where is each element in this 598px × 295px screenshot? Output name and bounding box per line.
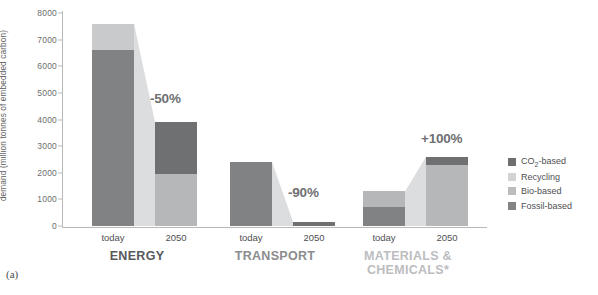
y-tick-label: 6000 xyxy=(37,61,57,71)
legend-item[interactable]: Recycling xyxy=(508,170,572,185)
bar-segment-fossil-based xyxy=(230,162,272,226)
y-tick-mark xyxy=(58,226,62,227)
y-tick-label: 7000 xyxy=(37,35,57,45)
x-tick-label: 2050 xyxy=(155,232,197,243)
legend-item[interactable]: CO2-based xyxy=(508,155,572,170)
change-annotation: +100% xyxy=(421,131,462,146)
y-axis-title: demand (million tonnes of embedded carbo… xyxy=(0,8,8,223)
bar-energy-2050 xyxy=(155,122,197,226)
y-tick-mark xyxy=(58,146,62,147)
bar-segment-co2-based xyxy=(293,222,335,226)
bar-segment-fossil-based xyxy=(363,207,405,226)
bar-transport-2050 xyxy=(293,222,335,226)
legend-label: Fossil-based xyxy=(521,201,572,211)
legend-swatch-icon xyxy=(508,173,516,181)
x-tick-label: today xyxy=(92,232,134,243)
x-tick-label: today xyxy=(230,232,272,243)
bar-segment-co2-based xyxy=(155,122,197,174)
legend-item[interactable]: Fossil-based xyxy=(508,199,572,214)
bar-materials-chemicals-today xyxy=(363,191,405,226)
x-axis-line xyxy=(62,227,487,228)
y-tick-mark xyxy=(58,66,62,67)
y-tick-label: 4000 xyxy=(37,115,57,125)
panel-label: (a) xyxy=(6,268,18,280)
y-tick-mark xyxy=(58,199,62,200)
bar-segment-co2-based xyxy=(426,157,468,165)
bar-energy-today xyxy=(92,24,134,226)
y-tick-label: 3000 xyxy=(37,141,57,151)
bar-segment-fossil-based xyxy=(92,50,134,226)
chart-legend: CO2-basedRecyclingBio-basedFossil-based xyxy=(508,155,572,213)
bar-segment-bio-based xyxy=(155,174,197,226)
group-label-materials-chemicals: MATERIALS &CHEMICALS* xyxy=(328,250,488,277)
bar-materials-chemicals-2050 xyxy=(426,157,468,226)
bar-segment-recycling xyxy=(363,191,405,207)
x-tick-label: today xyxy=(363,232,405,243)
legend-item[interactable]: Bio-based xyxy=(508,184,572,199)
y-tick-mark xyxy=(58,119,62,120)
legend-label: CO2-based xyxy=(521,156,566,168)
y-tick-label: 0 xyxy=(52,221,57,231)
bar-segment-recycling xyxy=(92,24,134,51)
legend-swatch-icon xyxy=(508,158,516,166)
change-annotation: -90% xyxy=(288,185,319,200)
legend-swatch-icon xyxy=(508,187,516,195)
y-tick-label: 2000 xyxy=(37,168,57,178)
change-annotation: -50% xyxy=(150,91,181,106)
group-label-energy: ENERGY xyxy=(57,250,217,264)
flow-ribbon xyxy=(134,13,155,226)
y-tick-mark xyxy=(58,39,62,40)
y-tick-label: 8000 xyxy=(37,8,57,18)
legend-label: Bio-based xyxy=(521,186,562,196)
plot-area: 010002000300040005000600070008000 xyxy=(62,13,487,226)
bar-transport-today xyxy=(230,162,272,226)
y-tick-mark xyxy=(58,13,62,14)
flow-ribbon xyxy=(405,13,426,226)
x-tick-label: 2050 xyxy=(293,232,335,243)
y-tick-mark xyxy=(58,172,62,173)
legend-swatch-icon xyxy=(508,202,516,210)
y-tick-label: 5000 xyxy=(37,88,57,98)
y-tick-mark xyxy=(58,92,62,93)
figure-panel-a: demand (million tonnes of embedded carbo… xyxy=(0,0,598,295)
bar-segment-bio-based xyxy=(426,165,468,226)
legend-label: Recycling xyxy=(521,172,560,182)
y-tick-label: 1000 xyxy=(37,194,57,204)
x-tick-label: 2050 xyxy=(426,232,468,243)
